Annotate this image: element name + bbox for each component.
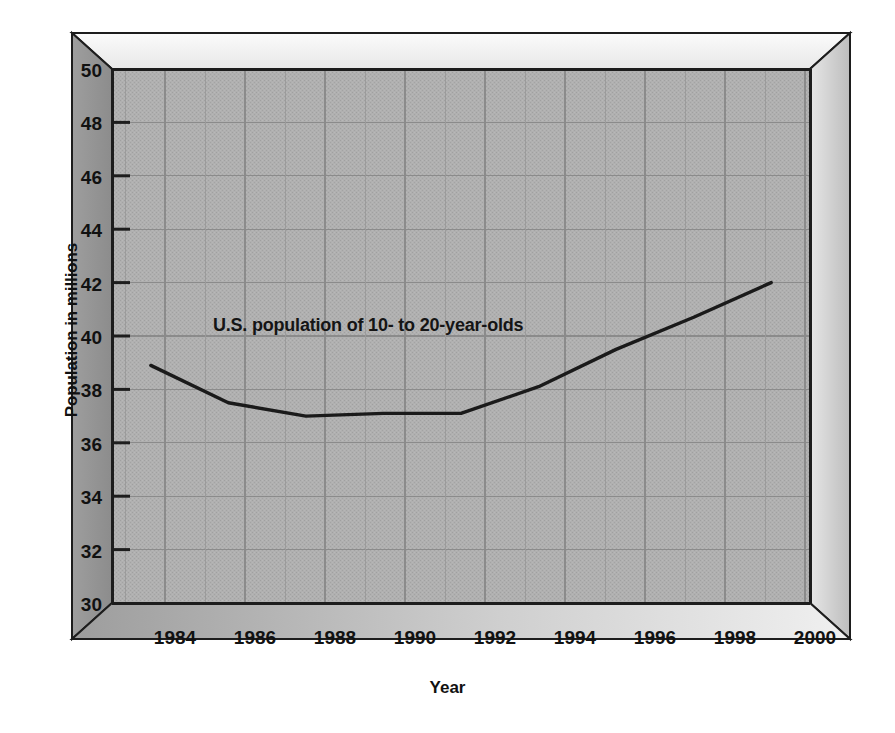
y-axis-tick-labels: 50 48 46 44 42 40 38 36 34 32 30 xyxy=(30,0,102,733)
y-tick-label: 36 xyxy=(56,435,102,454)
x-tick-label: 1996 xyxy=(620,628,690,647)
y-tick-label: 30 xyxy=(56,595,102,614)
line-chart xyxy=(0,0,895,733)
y-tick-label: 32 xyxy=(56,542,102,561)
y-tick-label: 38 xyxy=(56,381,102,400)
y-tick-label: 46 xyxy=(56,168,102,187)
x-tick-label: 1984 xyxy=(140,628,210,647)
y-tick-label: 42 xyxy=(56,275,102,294)
x-tick-label: 1986 xyxy=(220,628,290,647)
y-tick-label: 34 xyxy=(56,488,102,507)
y-tick-label: 40 xyxy=(56,328,102,347)
y-tick-label: 44 xyxy=(56,221,102,240)
x-tick-label: 1998 xyxy=(700,628,770,647)
x-tick-label: 1992 xyxy=(460,628,530,647)
x-axis-tick-labels: 1984 1986 1988 1990 1992 1994 1996 1998 … xyxy=(0,628,895,658)
series-annotation-label: U.S. population of 10- to 20-year-olds xyxy=(213,315,523,336)
chart-figure: Population in millions 50 48 46 44 42 40… xyxy=(0,0,895,733)
y-tick-label: 48 xyxy=(56,114,102,133)
x-tick-label: 2000 xyxy=(780,628,850,647)
x-tick-label: 1994 xyxy=(540,628,610,647)
x-tick-label: 1990 xyxy=(380,628,450,647)
x-tick-label: 1988 xyxy=(300,628,370,647)
y-tick-label: 50 xyxy=(56,61,102,80)
x-axis-label: Year xyxy=(0,678,895,698)
